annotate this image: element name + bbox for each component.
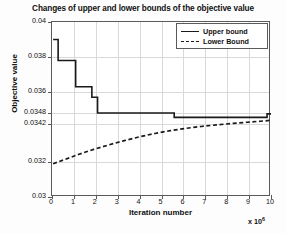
x-tick-label: 2	[85, 197, 105, 206]
x-axis-multiplier: x 106	[248, 216, 265, 226]
x-tick-label: 9	[238, 197, 258, 206]
x-tick-label: 10	[260, 197, 280, 206]
series-line	[53, 40, 271, 118]
y-tick-label: 0.0348	[2, 107, 46, 116]
legend-label-lower-bound: Lower Bound	[203, 37, 249, 46]
chart-legend[interactable]: Upper bound Lower Bound	[176, 23, 268, 49]
legend-item-upper-bound[interactable]: Upper bound	[180, 26, 264, 36]
x-tick-label: 6	[172, 197, 192, 206]
x-axis-title: Iteration number	[51, 208, 270, 217]
y-tick-label: 0.032	[2, 156, 46, 165]
y-tick-label: 0.03	[2, 191, 46, 200]
y-tick-label: 0.04	[2, 16, 46, 25]
chart-figure: Changes of upper and lower bounds of the…	[0, 0, 286, 234]
x-tick-label: 5	[151, 197, 171, 206]
x-tick-label: 1	[63, 197, 83, 206]
x-axis-multiplier-exponent: 6	[262, 216, 265, 222]
y-tick-label: 0.0342	[2, 118, 46, 127]
x-tick-label: 7	[194, 197, 214, 206]
dashed-line-icon	[180, 37, 200, 46]
x-tick-label: 4	[129, 197, 149, 206]
chart-title: Changes of upper and lower bounds of the…	[0, 4, 286, 13]
y-tick-label: 0.036	[2, 86, 46, 95]
x-tick-label: 3	[107, 197, 127, 206]
legend-item-lower-bound[interactable]: Lower Bound	[180, 36, 264, 46]
solid-line-icon	[180, 27, 200, 36]
legend-label-upper-bound: Upper bound	[203, 27, 248, 36]
x-axis-multiplier-base: x 10	[248, 217, 262, 226]
series-line	[53, 120, 271, 163]
x-tick-label: 8	[216, 197, 236, 206]
y-tick-label: 0.038	[2, 51, 46, 60]
